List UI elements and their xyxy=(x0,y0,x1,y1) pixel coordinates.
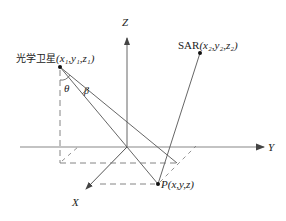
optical-satellite-point xyxy=(58,65,62,69)
sar-coords: (x₂,y₂,z₂) xyxy=(199,39,237,51)
sar-name: SAR xyxy=(178,39,199,51)
x-axis-label: X xyxy=(72,197,79,208)
sar-point xyxy=(198,51,202,55)
optical-line-to-p xyxy=(60,67,158,184)
optical-satellite-coords: (x₁,y₁,z₁) xyxy=(56,52,94,64)
target-p-coords: (x,y,z) xyxy=(168,178,194,190)
target-p-label: P(x,y,z) xyxy=(161,179,194,190)
sar-line-to-p xyxy=(158,53,200,184)
target-point-p xyxy=(156,182,160,186)
optical-line-2 xyxy=(60,67,177,163)
optical-diag-dashed xyxy=(62,147,78,161)
beta-label: β xyxy=(84,86,89,96)
x-axis xyxy=(86,147,127,189)
z-axis-label: Z xyxy=(122,17,128,28)
theta-label: θ xyxy=(64,83,69,94)
optical-satellite-name: 光学卫星 xyxy=(16,53,56,64)
target-p-name: P xyxy=(161,178,168,190)
diagram-canvas xyxy=(0,0,286,221)
optical-satellite-label: 光学卫星(x₁,y₁,z₁) xyxy=(16,53,94,64)
p-diag-dashed xyxy=(160,146,196,182)
sar-label: SAR(x₂,y₂,z₂) xyxy=(178,40,238,51)
y-axis-label: Y xyxy=(268,142,274,153)
